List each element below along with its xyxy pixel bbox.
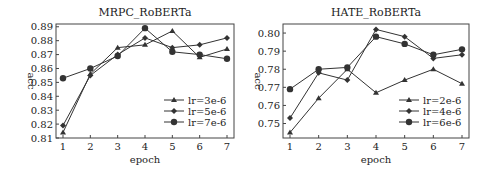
legend-diamond-marker xyxy=(171,108,177,114)
legend-circle-marker xyxy=(171,119,177,125)
x-tick-label: 2 xyxy=(87,141,93,152)
data-point-circle-marker xyxy=(224,56,230,62)
data-point-diamond-marker xyxy=(373,26,379,32)
data-point-diamond-marker xyxy=(287,115,293,121)
legend-label: lr=7e-6 xyxy=(188,117,226,128)
data-point-triangle-marker xyxy=(224,46,230,51)
data-point-circle-marker xyxy=(344,64,350,70)
y-tick-label: 0.89 xyxy=(31,21,53,32)
legend-label: lr=6e-6 xyxy=(423,117,461,128)
chart-hate-roberta: HATE_RoBERTa0.750.760.770.780.790.801234… xyxy=(253,6,469,165)
y-tick-label: 0.75 xyxy=(258,118,280,129)
data-point-circle-marker xyxy=(315,66,321,72)
legend: lr=2e-6lr=4e-6lr=6e-6 xyxy=(399,95,461,128)
x-tick-label: 5 xyxy=(401,141,407,152)
data-point-diamond-marker xyxy=(344,77,350,83)
legend-circle-marker xyxy=(406,119,412,125)
y-axis-label: acc xyxy=(253,72,264,90)
chart-title: HATE_RoBERTa xyxy=(331,6,421,19)
data-point-circle-marker xyxy=(430,52,436,58)
chart-mrpc-roberta: MRPC_RoBERTa0.810.820.830.840.850.860.87… xyxy=(26,6,234,165)
data-point-diamond-marker xyxy=(459,52,465,58)
x-tick-label: 3 xyxy=(114,141,120,152)
legend-label: lr=5e-6 xyxy=(188,106,226,117)
x-tick-label: 4 xyxy=(373,141,379,152)
data-point-circle-marker xyxy=(60,75,66,81)
data-point-circle-marker xyxy=(196,51,202,57)
y-tick-label: 0.84 xyxy=(31,91,53,102)
y-axis-label: acc xyxy=(26,72,37,90)
y-tick-label: 0.80 xyxy=(258,28,280,39)
data-point-circle-marker xyxy=(373,33,379,39)
data-point-triangle-marker xyxy=(430,66,436,71)
x-axis-label: epoch xyxy=(130,154,161,165)
legend-label: lr=2e-6 xyxy=(423,95,461,106)
x-tick-label: 5 xyxy=(169,141,175,152)
legend-label: lr=3e-6 xyxy=(188,95,226,106)
x-axis-label: epoch xyxy=(361,154,392,165)
x-tick-label: 2 xyxy=(315,141,321,152)
x-tick-label: 1 xyxy=(287,141,293,152)
data-point-circle-marker xyxy=(401,41,407,47)
y-tick-label: 0.88 xyxy=(31,35,53,46)
data-point-circle-marker xyxy=(169,49,175,55)
x-tick-label: 3 xyxy=(344,141,350,152)
x-tick-label: 7 xyxy=(224,141,230,152)
y-tick-label: 0.79 xyxy=(258,46,280,57)
series-lr-6e-6 xyxy=(287,33,465,92)
y-tick-label: 0.82 xyxy=(31,119,53,130)
chart-title: MRPC_RoBERTa xyxy=(98,6,191,19)
data-point-triangle-marker xyxy=(60,129,66,134)
x-tick-label: 4 xyxy=(142,141,148,152)
y-tick-label: 0.87 xyxy=(31,49,53,60)
data-point-diamond-marker xyxy=(197,42,203,48)
x-tick-label: 6 xyxy=(430,141,436,152)
legend: lr=3e-6lr=5e-6lr=7e-6 xyxy=(164,95,226,128)
data-point-circle-marker xyxy=(287,86,293,92)
data-point-circle-marker xyxy=(142,25,148,31)
data-point-circle-marker xyxy=(87,65,93,71)
series-line xyxy=(290,37,462,89)
x-tick-label: 7 xyxy=(459,141,465,152)
data-point-circle-marker xyxy=(459,46,465,52)
y-tick-label: 0.81 xyxy=(31,133,53,144)
data-point-circle-marker xyxy=(114,53,120,59)
data-point-diamond-marker xyxy=(224,35,230,41)
legend-label: lr=4e-6 xyxy=(423,106,461,117)
y-tick-label: 0.76 xyxy=(258,100,280,111)
data-point-triangle-marker xyxy=(142,42,148,47)
x-tick-label: 6 xyxy=(196,141,202,152)
data-point-triangle-marker xyxy=(459,81,465,86)
legend-diamond-marker xyxy=(406,108,412,114)
charts-canvas: MRPC_RoBERTa0.810.820.830.840.850.860.87… xyxy=(0,0,493,174)
x-tick-label: 1 xyxy=(60,141,66,152)
y-tick-label: 0.83 xyxy=(31,105,53,116)
series-lr-7e-6 xyxy=(60,25,230,81)
data-point-triangle-marker xyxy=(169,28,175,33)
data-point-diamond-marker xyxy=(142,35,148,41)
